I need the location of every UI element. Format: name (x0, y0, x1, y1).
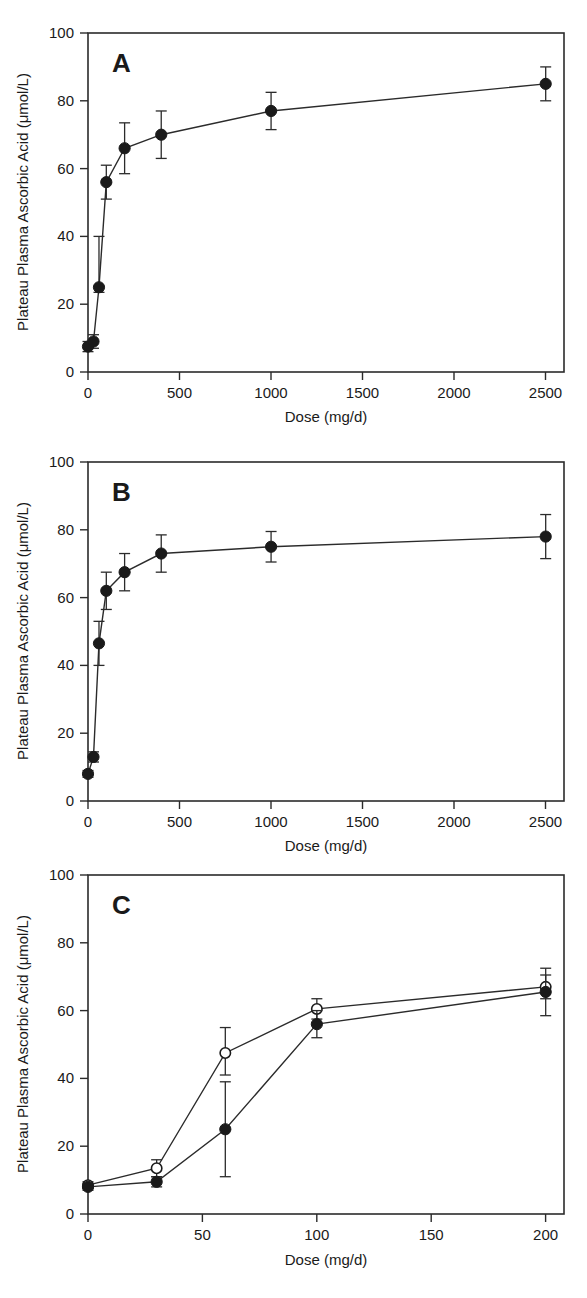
panel-b-plot-content (82, 515, 551, 780)
panel-b-x-ticks (88, 801, 546, 809)
x-tick-label: 1000 (254, 813, 287, 830)
panel-letter-a: A (112, 48, 131, 78)
y-tick-label: 80 (57, 934, 74, 951)
x-axis-title: Dose (mg/d) (285, 837, 368, 854)
x-tick-label: 500 (167, 813, 192, 830)
data-point (540, 531, 551, 542)
data-point (101, 177, 112, 188)
x-tick-label: 150 (419, 1226, 444, 1243)
panel-a-y-tick-labels: 0 20 40 60 80 100 (49, 24, 74, 380)
y-tick-label: 60 (57, 160, 74, 177)
data-point (220, 1048, 230, 1058)
data-point (540, 78, 551, 89)
x-tick-label: 2500 (529, 384, 562, 401)
panel-b-svg: 0 20 40 60 80 100 0 500 1000 1500 2000 (0, 430, 587, 860)
y-axis-title: Plateau Plasma Ascorbic Acid (μmol/L) (14, 73, 31, 331)
chart-panel-b: 0 20 40 60 80 100 0 500 1000 1500 2000 (0, 430, 587, 860)
series-line (88, 84, 546, 347)
panel-a-y-ticks (80, 33, 88, 372)
data-point (88, 336, 99, 347)
data-point (82, 768, 93, 779)
series-open (83, 975, 552, 1190)
panel-a-x-tick-labels: 0 500 1000 1500 2000 2500 (84, 384, 562, 401)
data-point (220, 1124, 231, 1135)
x-tick-label: 1500 (346, 813, 379, 830)
y-tick-label: 0 (66, 1205, 74, 1222)
chart-panel-a: 0 20 40 60 80 100 0 500 1000 1500 2000 (0, 0, 587, 430)
panel-b-x-tick-labels: 0 500 1000 1500 2000 2500 (84, 813, 562, 830)
x-tick-label: 0 (84, 384, 92, 401)
data-point (265, 541, 276, 552)
x-tick-label: 1500 (346, 384, 379, 401)
panel-b-y-ticks (80, 462, 88, 801)
data-point (151, 1163, 161, 1173)
data-point (540, 986, 551, 997)
y-tick-label: 100 (49, 866, 74, 883)
y-tick-label: 40 (57, 656, 74, 673)
panel-letter-b: B (112, 477, 131, 507)
y-tick-label: 60 (57, 1002, 74, 1019)
y-tick-label: 100 (49, 453, 74, 470)
y-axis-title: Plateau Plasma Ascorbic Acid (μmol/L) (14, 502, 31, 760)
data-point (156, 129, 167, 140)
x-tick-label: 2000 (437, 384, 470, 401)
figure-ascorbic-acid-dose-response: 0 20 40 60 80 100 0 500 1000 1500 2000 (0, 0, 587, 1298)
data-point (93, 638, 104, 649)
data-point (88, 751, 99, 762)
y-tick-label: 80 (57, 92, 74, 109)
y-tick-label: 20 (57, 1137, 74, 1154)
panel-a-svg: 0 20 40 60 80 100 0 500 1000 1500 2000 (0, 0, 587, 430)
panel-c-svg: 0 20 40 60 80 100 0 50 100 150 200 (0, 862, 587, 1298)
x-axis-title: Dose (mg/d) (285, 1251, 368, 1268)
x-tick-label: 50 (194, 1226, 211, 1243)
data-point (119, 143, 130, 154)
x-axis-title: Dose (mg/d) (285, 408, 368, 425)
data-point (101, 585, 112, 596)
y-axis-title: Plateau Plasma Ascorbic Acid (μmol/L) (14, 915, 31, 1173)
panel-b-y-tick-labels: 0 20 40 60 80 100 (49, 453, 74, 809)
panel-c-y-tick-labels: 0 20 40 60 80 100 (49, 866, 74, 1222)
y-tick-label: 80 (57, 521, 74, 538)
x-tick-label: 500 (167, 384, 192, 401)
x-tick-label: 0 (84, 813, 92, 830)
x-tick-label: 1000 (254, 384, 287, 401)
data-point (156, 548, 167, 559)
x-tick-label: 0 (84, 1226, 92, 1243)
y-tick-label: 0 (66, 363, 74, 380)
data-point (311, 1019, 322, 1030)
panel-a-plot-content (82, 67, 551, 352)
x-tick-label: 2500 (529, 813, 562, 830)
y-tick-label: 20 (57, 724, 74, 741)
y-tick-label: 60 (57, 589, 74, 606)
y-tick-label: 40 (57, 227, 74, 244)
data-point (265, 105, 276, 116)
panel-c-x-tick-labels: 0 50 100 150 200 (84, 1226, 558, 1243)
x-tick-label: 200 (533, 1226, 558, 1243)
series-filled (82, 515, 551, 780)
panel-letter-c: C (112, 890, 131, 920)
data-point (119, 567, 130, 578)
panel-a-frame (88, 33, 564, 372)
panel-c-y-ticks (80, 875, 88, 1214)
data-point (82, 1181, 93, 1192)
series-filled (82, 67, 551, 352)
data-point (151, 1176, 162, 1187)
y-tick-label: 100 (49, 24, 74, 41)
x-tick-label: 2000 (437, 813, 470, 830)
panel-a-x-ticks (88, 372, 546, 380)
y-tick-label: 20 (57, 295, 74, 312)
panel-c-x-ticks (88, 1214, 546, 1222)
y-tick-label: 0 (66, 792, 74, 809)
chart-panel-c: 0 20 40 60 80 100 0 50 100 150 200 (0, 862, 587, 1298)
panel-c-plot-content (82, 968, 551, 1192)
x-tick-label: 100 (304, 1226, 329, 1243)
y-tick-label: 40 (57, 1069, 74, 1086)
panel-b-frame (88, 462, 564, 801)
data-point (93, 282, 104, 293)
